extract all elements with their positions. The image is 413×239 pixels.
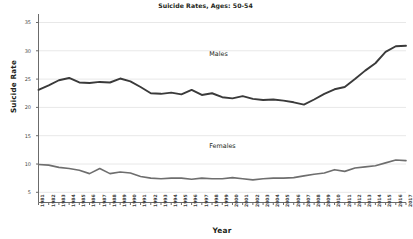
series-line-females (39, 160, 407, 180)
y-tick-label: 5 (3, 189, 31, 195)
x-tick-label: 2009 (326, 194, 331, 207)
data-series-group (39, 46, 407, 180)
x-tick-label: 2017 (408, 194, 413, 207)
x-tick-label: 2008 (316, 194, 321, 207)
x-tick-label: 2015 (387, 194, 392, 207)
x-tick-label: 2010 (336, 194, 341, 207)
y-tick-label: 20 (3, 104, 31, 110)
x-tick-label: 2004 (275, 194, 280, 207)
axis-lines (39, 14, 407, 203)
x-tick-label: 1997 (204, 194, 209, 207)
x-tick-label: 1982 (51, 194, 56, 207)
x-tick-label: 2012 (357, 194, 362, 207)
y-tick-label: 25 (3, 76, 31, 82)
x-tick-label: 1987 (102, 194, 107, 207)
series-label-females: Females (209, 142, 235, 150)
x-tick-label: 2011 (347, 194, 352, 207)
x-tick-label: 1985 (81, 194, 86, 207)
y-tick-label: 10 (3, 161, 31, 167)
x-tick-label: 2002 (255, 194, 260, 207)
x-tick-label: 2007 (306, 194, 311, 207)
x-tick-label: 2016 (398, 194, 403, 207)
x-tick-label: 1994 (173, 194, 178, 207)
x-tick-label: 1999 (224, 194, 229, 207)
x-tick-label: 1991 (142, 194, 147, 207)
x-tick-label: 2001 (244, 194, 249, 207)
x-tick-label: 1986 (91, 194, 96, 207)
series-label-males: Males (209, 50, 227, 58)
x-tick-label: 2005 (285, 194, 290, 207)
x-tick-label: 1993 (163, 194, 168, 207)
x-tick-label: 2013 (367, 194, 372, 207)
x-tick-label: 1992 (153, 194, 158, 207)
x-tick-label: 1995 (183, 194, 188, 207)
gridlines (39, 22, 407, 192)
y-tick-label: 15 (3, 133, 31, 139)
x-tick-label: 2003 (265, 194, 270, 207)
x-tick-label: 1989 (122, 194, 127, 207)
x-tick-label: 2006 (296, 194, 301, 207)
x-tick-label: 1998 (214, 194, 219, 207)
x-tick-label: 1990 (132, 194, 137, 207)
x-tick-label: 1981 (40, 194, 45, 207)
x-tick-label: 1984 (71, 194, 76, 207)
y-tick-label: 35 (3, 19, 31, 25)
y-tick-label: 30 (3, 48, 31, 54)
x-tick-label: 1988 (112, 194, 117, 207)
x-tick-label: 2014 (377, 194, 382, 207)
x-tick-label: 1983 (61, 194, 66, 207)
x-tick-label: 1996 (193, 194, 198, 207)
x-tick-label: 2000 (234, 194, 239, 207)
